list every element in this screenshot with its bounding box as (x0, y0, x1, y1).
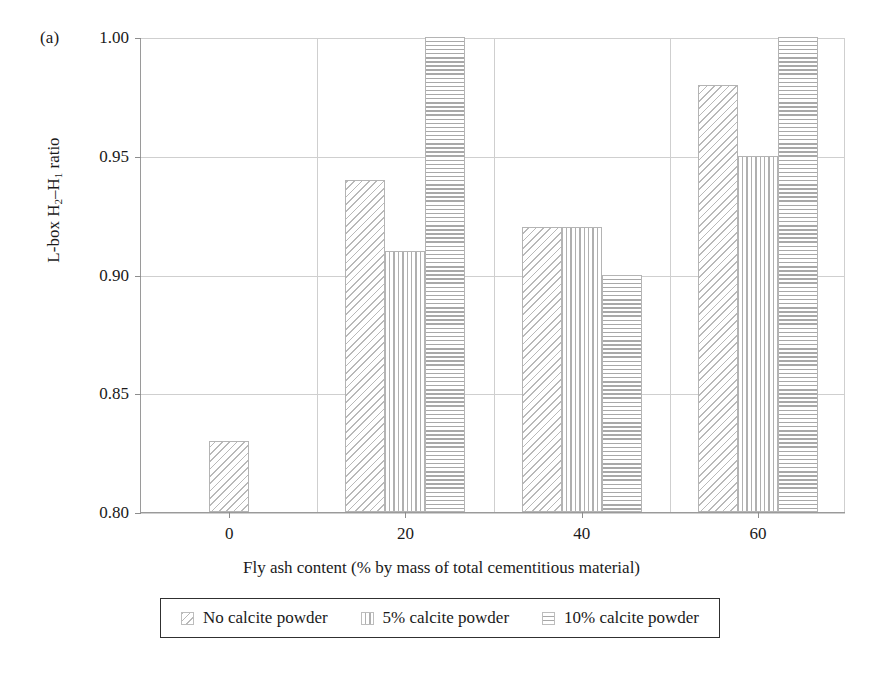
gridline-vertical (670, 38, 671, 512)
bar (738, 156, 778, 512)
bar (562, 227, 602, 512)
legend-swatch-icon (181, 612, 194, 625)
legend-swatch-icon (361, 612, 374, 625)
gridline-vertical (317, 38, 318, 512)
gridline-vertical (494, 38, 495, 512)
bar (522, 227, 562, 512)
bar (698, 85, 738, 513)
chart-legend: No calcite powder5% calcite powder10% ca… (160, 598, 720, 638)
y-axis-tick-mark (135, 157, 141, 158)
y-axis-tick-label: 0.80 (99, 503, 129, 523)
y-axis-title-sub2: 1 (52, 173, 64, 179)
x-axis-tick-mark (582, 512, 583, 518)
y-axis-tick-mark (135, 276, 141, 277)
gridline-horizontal (141, 513, 845, 514)
y-axis-title: L-box H2–H1 ratio (44, 50, 64, 350)
x-axis-tick-label: 60 (749, 524, 766, 544)
y-axis-title-dash: – (44, 191, 63, 200)
y-axis-tick-label: 0.95 (99, 147, 129, 167)
legend-entry[interactable]: No calcite powder (181, 608, 328, 628)
y-axis-tick-mark (135, 513, 141, 514)
bar (209, 441, 249, 512)
x-axis-tick-label: 40 (573, 524, 590, 544)
x-axis-tick-mark (405, 512, 406, 518)
legend-entry[interactable]: 10% calcite powder (542, 608, 699, 628)
y-axis-tick-label: 0.85 (99, 384, 129, 404)
plot-area: 0.800.850.900.951.00 0204060 (140, 38, 845, 513)
bar (778, 37, 818, 512)
legend-label: 10% calcite powder (564, 608, 699, 628)
x-axis-tick-label: 0 (225, 524, 234, 544)
panel-label: (a) (40, 28, 59, 48)
y-axis-title-mid: H (44, 178, 63, 190)
x-axis-tick-mark (229, 512, 230, 518)
x-axis-tick-label: 20 (397, 524, 414, 544)
bar (385, 251, 425, 512)
legend-entry[interactable]: 5% calcite powder (361, 608, 510, 628)
bar (425, 37, 465, 512)
bar (602, 275, 642, 513)
legend-label: 5% calcite powder (383, 608, 510, 628)
y-axis-title-sub1: 2 (52, 199, 64, 205)
y-axis-title-prefix: L-box H (44, 205, 63, 263)
y-axis-tick-mark (135, 38, 141, 39)
legend-swatch-icon (542, 612, 555, 625)
x-axis-tick-mark (758, 512, 759, 518)
y-axis-tick-mark (135, 394, 141, 395)
legend-label: No calcite powder (203, 608, 328, 628)
bar (345, 180, 385, 513)
y-axis-title-suffix: ratio (44, 137, 63, 172)
y-axis-tick-label: 0.90 (99, 266, 129, 286)
y-axis-tick-label: 1.00 (99, 28, 129, 48)
x-axis-title: Fly ash content (% by mass of total ceme… (0, 558, 883, 578)
